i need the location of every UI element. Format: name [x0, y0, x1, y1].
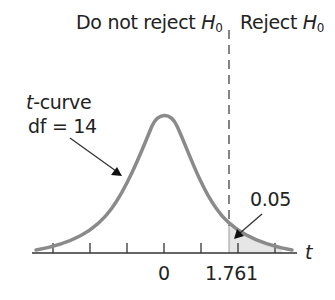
alpha-label: 0.05 [250, 190, 291, 209]
curve-pointer-arrow [70, 138, 116, 171]
t-distribution-diagram [0, 0, 335, 300]
tick-label-zero: 0 [158, 264, 170, 283]
do-not-reject-label: Do not reject H0 [76, 13, 223, 34]
tick-label-critical: 1.761 [205, 264, 258, 283]
df-label: df = 14 [28, 117, 97, 136]
reject-label: Reject H0 [240, 13, 324, 34]
t-curve-label: t-curve [26, 93, 91, 112]
axis-label-t: t [305, 243, 312, 262]
alpha-pointer-arrow [240, 214, 262, 233]
